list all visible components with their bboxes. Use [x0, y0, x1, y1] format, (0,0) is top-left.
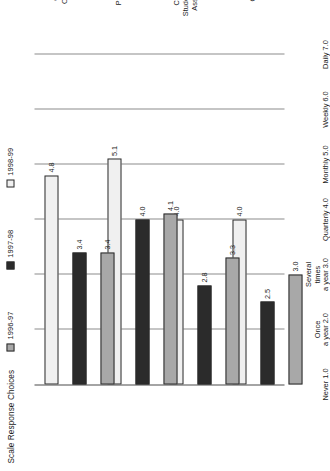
- bar-group: 4.83.43.4: [44, 55, 86, 384]
- bar-1996-97: [100, 252, 114, 384]
- legend-item-label: 1996-97: [5, 311, 14, 339]
- axis-tick-label: Daily 7.0: [321, 24, 330, 84]
- bar-row: 4.1: [163, 55, 177, 384]
- legend-swatch-1996-97: [6, 343, 14, 351]
- axis-tick-label: Weekly 6.0: [321, 79, 330, 139]
- bar-value-label: 2.5: [262, 289, 271, 302]
- bar-value-label: 4.0: [137, 206, 146, 219]
- category-label: Contact with Other Building Resource: [52, 0, 78, 40]
- category-label: Curriculum Coordination Practices: [240, 0, 266, 40]
- category-label: Parent Contact and Involvement: [115, 0, 141, 40]
- axis-tick-text: Quarterly: [320, 210, 329, 240]
- bar-1998-99: [44, 175, 58, 384]
- legend-item: 1998-99: [5, 147, 14, 187]
- page-title: Scale Response Choices: [6, 369, 15, 463]
- bar-row: 4.8: [44, 55, 58, 384]
- bar-value-label: 3.4: [103, 239, 112, 252]
- legend-item: 1997-98: [5, 229, 14, 269]
- bar-row: 3.4: [100, 55, 114, 384]
- bar-1997-98: [72, 252, 86, 384]
- axis-tick-number: 3.0: [320, 258, 329, 270]
- gridline: [34, 53, 284, 54]
- bar-row: 4.0: [135, 55, 149, 384]
- bar-row: 3.0: [288, 55, 302, 384]
- axis-tick-number: 6.0: [320, 91, 329, 103]
- bar-1996-97: [288, 274, 302, 384]
- bar-value-label: 3.3: [228, 245, 237, 258]
- bar-value-label: 4.1: [165, 201, 174, 214]
- axis-tick-label: Never 1.0: [321, 354, 330, 414]
- bar-1997-98: [260, 302, 274, 385]
- axis-tick-number: 2.0: [320, 313, 329, 325]
- bar-value-label: 3.0: [290, 261, 299, 274]
- legend-item: 1996-97: [5, 311, 14, 351]
- axis-tick-label: Once a year 2.0: [313, 299, 330, 359]
- axis-tick-number: 1.0: [320, 368, 329, 380]
- axis-tick-label: Quarterly 4.0: [321, 189, 330, 249]
- axis-tick-text: Never: [320, 380, 329, 400]
- axis-tick-text: Weekly: [320, 103, 329, 127]
- bar-row: 3.4: [72, 55, 86, 384]
- axis-tick-number: 7.0: [320, 40, 329, 52]
- legend-item-label: 1997-98: [5, 229, 14, 257]
- chart-legend: 1996-971997-981998-99: [5, 147, 14, 351]
- bar-1997-98: [197, 285, 211, 384]
- legend-item-label: 1998-99: [5, 147, 14, 175]
- bar-row: 3.3: [225, 55, 239, 384]
- axis-tick-number: 5.0: [320, 145, 329, 157]
- bar-value-label: 4.8: [47, 162, 56, 175]
- legend-swatch-1997-98: [6, 261, 14, 269]
- bar-row: 2.8: [197, 55, 211, 384]
- axis-tick-label: Several times a year 3.0: [304, 244, 330, 304]
- axis-tick-number: 4.0: [320, 198, 329, 210]
- axis-tick-text: Daily: [320, 52, 329, 68]
- bar-1996-97: [225, 258, 239, 385]
- bar-value-label: 2.8: [200, 272, 209, 285]
- bar-1996-97: [163, 214, 177, 385]
- bar-1997-98: [135, 219, 149, 384]
- category-label: Coordination of Student Assignments, Ass…: [173, 0, 208, 40]
- legend-swatch-1998-99: [6, 179, 14, 187]
- bar-row: 2.5: [260, 55, 274, 384]
- bar-value-label: 3.4: [75, 239, 84, 252]
- axis-tick-text: Monthly: [320, 157, 329, 183]
- axis-tick-label: Monthly 5.0: [321, 134, 330, 194]
- plot-area: Never 1.0Once a year 2.0Several times a …: [34, 55, 284, 385]
